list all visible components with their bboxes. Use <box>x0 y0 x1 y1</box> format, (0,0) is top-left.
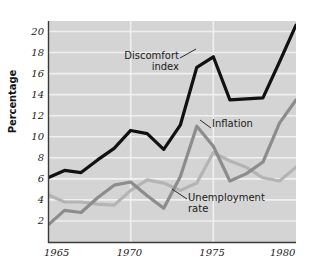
chart-figure: Percentage 2468101214161820 196519701975… <box>0 0 312 279</box>
axis-spines <box>0 0 312 279</box>
annotation-discomfort-index: Discomfort index <box>107 50 179 72</box>
annotation-inflation: Inflation <box>212 118 282 129</box>
annotation-unemployment-rate: Unemployment rate <box>188 192 274 214</box>
